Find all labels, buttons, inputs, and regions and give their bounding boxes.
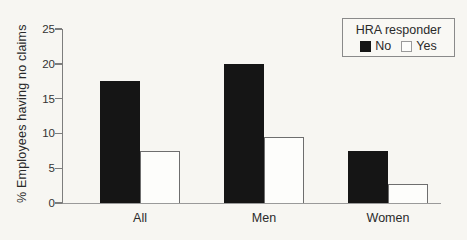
y-tick-label-15: 15 [25, 93, 55, 105]
y-tick-5 [55, 168, 62, 169]
y-tick-label-10: 10 [25, 127, 55, 139]
y-tick-20 [55, 63, 62, 64]
x-category-label-women: Women [348, 211, 428, 225]
y-tick-25 [55, 28, 62, 29]
bar-yes-women [388, 184, 428, 203]
legend-label-yes: Yes [416, 39, 436, 53]
y-tick-label-0: 0 [25, 197, 55, 209]
legend-title: HRA responder [356, 24, 441, 37]
bar-no-all [100, 81, 140, 203]
bar-chart-figure: % Employees having no claims 0510152025A… [0, 0, 467, 240]
legend-swatch-yes-icon [401, 41, 412, 52]
y-tick-0 [55, 202, 62, 203]
y-tick-15 [55, 98, 62, 99]
y-tick-label-25: 25 [25, 23, 55, 35]
y-tick-10 [55, 133, 62, 134]
x-category-label-men: Men [224, 211, 304, 225]
legend-entries: No Yes [360, 39, 436, 53]
legend-swatch-no-icon [360, 41, 371, 52]
y-tick-label-20: 20 [25, 58, 55, 70]
y-tick-label-5: 5 [25, 162, 55, 174]
bar-yes-all [140, 151, 180, 203]
x-category-label-all: All [100, 211, 180, 225]
y-axis-title: % Employees having no claims [15, 27, 29, 203]
legend-label-no: No [375, 39, 391, 53]
bar-yes-men [264, 137, 304, 203]
legend: HRA responder No Yes [342, 18, 455, 57]
bar-no-men [224, 64, 264, 203]
legend-entry-no: No [360, 39, 391, 53]
legend-entry-yes: Yes [401, 39, 436, 53]
bar-no-women [348, 151, 388, 203]
